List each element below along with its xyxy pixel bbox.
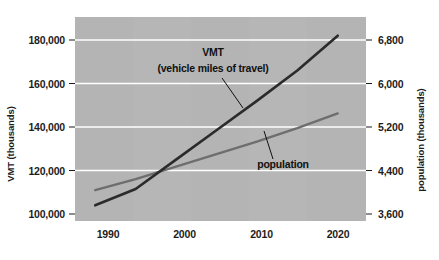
vmt-annotation-label: VMT xyxy=(202,46,224,58)
left-tick-label: 120,000 xyxy=(28,165,65,177)
plot-band xyxy=(133,17,191,221)
right-axis-tick-labels: 6,800 6,000 5,200 4,400 3,600 xyxy=(378,34,404,220)
x-tick-label: 2010 xyxy=(250,228,273,240)
x-tick-label: 2020 xyxy=(327,228,350,240)
left-axis-ticks xyxy=(69,40,75,214)
right-tick-label: 6,800 xyxy=(378,34,404,46)
left-tick-label: 100,000 xyxy=(28,208,65,220)
right-axis-ticks xyxy=(366,40,372,214)
chart-canvas: 180,000 160,000 140,000 120,000 100,000 … xyxy=(0,0,439,260)
x-tick-label: 2000 xyxy=(173,228,196,240)
right-tick-label: 6,000 xyxy=(378,78,404,90)
right-tick-label: 3,600 xyxy=(378,208,404,220)
left-tick-label: 180,000 xyxy=(28,34,65,46)
x-axis-tick-labels: 1990 2000 2010 2020 xyxy=(97,228,350,240)
right-tick-label: 4,400 xyxy=(378,165,404,177)
x-tick-label: 1990 xyxy=(97,228,120,240)
left-axis-tick-labels: 180,000 160,000 140,000 120,000 100,000 xyxy=(28,34,65,220)
right-axis-title: population (thousands) xyxy=(415,88,426,191)
left-tick-label: 140,000 xyxy=(28,121,65,133)
left-tick-label: 160,000 xyxy=(28,78,65,90)
population-annotation-label: population xyxy=(257,158,309,170)
right-tick-label: 5,200 xyxy=(378,121,404,133)
left-axis-title: VMT (thousands) xyxy=(5,106,16,182)
plot-band xyxy=(249,17,307,221)
vmt-annotation-sublabel: (vehicle miles of travel) xyxy=(157,62,268,74)
vmt-population-chart: 180,000 160,000 140,000 120,000 100,000 … xyxy=(0,0,439,260)
